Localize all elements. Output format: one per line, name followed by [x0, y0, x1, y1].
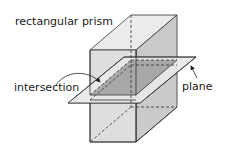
label-intersection: intersection	[14, 81, 79, 94]
label-plane: plane	[182, 80, 213, 93]
label-rectangular-prism: rectangular prism	[15, 15, 113, 28]
plane-arrow-icon	[191, 66, 197, 78]
plane-front-strip	[68, 98, 146, 103]
prism-plane-diagram: rectangular prism intersection plane	[0, 0, 225, 149]
